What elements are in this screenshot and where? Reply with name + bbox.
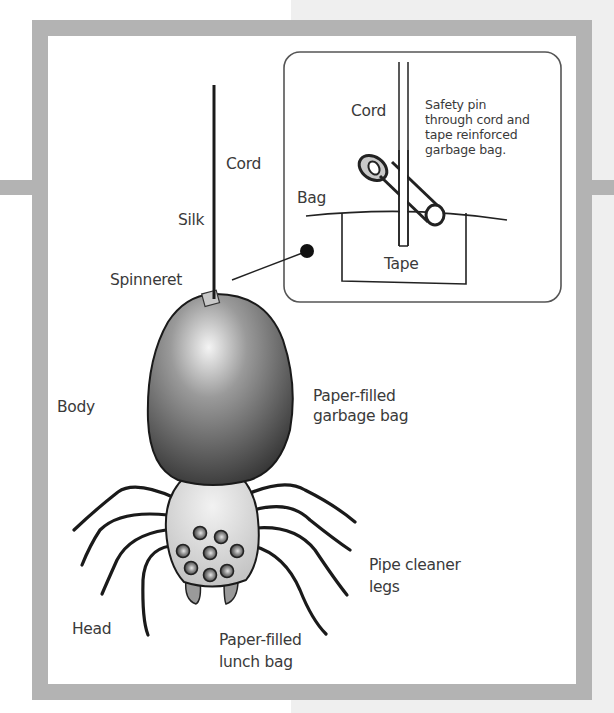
label-legs-1: Pipe cleaner (369, 555, 461, 576)
label-head: Head (72, 619, 111, 640)
label-spinneret: Spinneret (110, 270, 182, 291)
inset-label-tape: Tape (384, 254, 419, 275)
inset-note-1: Safety pin (425, 97, 486, 112)
inset-note-4: garbage bag. (425, 142, 506, 157)
inset-note-3: tape reinforced (425, 127, 518, 142)
label-body-desc-1: Paper-filled (313, 386, 396, 407)
label-head-desc-2: lunch bag (219, 652, 293, 673)
label-head-desc-1: Paper-filled (219, 630, 302, 651)
label-body: Body (57, 397, 95, 418)
inset-label-cord: Cord (351, 101, 386, 122)
label-cord: Cord (226, 154, 261, 175)
spider-body (148, 294, 293, 485)
label-silk: Silk (178, 210, 204, 231)
spider-diagram (0, 0, 614, 713)
inset-detail (284, 52, 561, 302)
label-body-desc-2: garbage bag (313, 406, 408, 427)
inset-label-bag: Bag (297, 188, 326, 209)
inset-note-2: through cord and (425, 112, 530, 127)
callout-dot (300, 244, 314, 258)
label-legs-2: legs (369, 577, 400, 598)
